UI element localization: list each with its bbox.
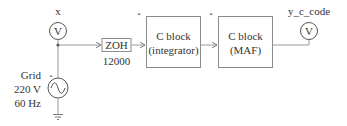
maf-box <box>219 17 273 68</box>
integrator-subtitle: (integrator) <box>148 44 198 57</box>
voltmeter-x[interactable]: x V <box>50 5 67 40</box>
voltmeter-output-symbol: V <box>305 25 313 37</box>
voltmeter-output-label: y_c_code <box>288 5 330 17</box>
zoh-rate: 12000 <box>103 55 131 67</box>
maf-subtitle: (MAF) <box>230 44 262 57</box>
maf-title: C block <box>228 30 263 42</box>
ac-source[interactable] <box>48 78 68 98</box>
voltmeter-output[interactable]: y_c_code V <box>288 5 330 40</box>
ground-icon <box>53 115 63 120</box>
zoh-label: ZOH <box>105 39 128 51</box>
grid-marker: * <box>50 74 53 80</box>
zoh-block[interactable]: ZOH <box>102 39 131 52</box>
voltmeter-x-label: x <box>55 5 61 17</box>
integrator-title: C block <box>156 30 191 42</box>
signal-flow-diagram: x V ZOH 12000 * C block (integrator) * C… <box>0 0 347 126</box>
integrator-marker: * <box>137 11 141 19</box>
grid-name: Grid <box>21 69 42 81</box>
maf-marker: * <box>209 11 213 19</box>
grid-voltage: 220 V <box>14 83 41 95</box>
voltmeter-x-symbol: V <box>54 25 62 37</box>
c-block-maf[interactable]: C block (MAF) <box>219 17 273 68</box>
grid-frequency: 60 Hz <box>14 97 41 109</box>
c-block-integrator[interactable]: C block (integrator) <box>147 17 201 68</box>
integrator-box <box>147 17 201 68</box>
wire-maf-to-output <box>273 40 310 46</box>
